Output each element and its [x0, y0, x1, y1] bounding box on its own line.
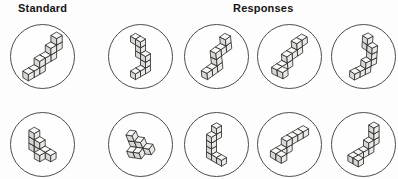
cube-figure	[109, 25, 172, 88]
response-circle-2-1	[108, 112, 173, 177]
response-circle-2-2	[184, 112, 249, 177]
response-circle-1-2	[184, 24, 249, 89]
response-circle-2-4	[331, 112, 396, 177]
response-circle-2-3	[257, 112, 322, 177]
response-circle-1-3	[257, 24, 322, 89]
response-circle-1-4	[331, 24, 396, 89]
cube-figure	[109, 113, 172, 176]
cube-figure	[11, 25, 74, 88]
response-circle-1-1	[108, 24, 173, 89]
cube-figure	[185, 113, 248, 176]
cube-figure	[258, 25, 321, 88]
standard-stimulus-circle-1	[10, 24, 75, 89]
cube-figure	[185, 25, 248, 88]
cube-figure	[11, 113, 74, 176]
mental-rotation-figure: Standard Responses	[0, 0, 398, 179]
cube-figure	[258, 113, 321, 176]
responses-column-label: Responses	[233, 2, 294, 14]
cube-figure	[332, 113, 395, 176]
cube-figure	[332, 25, 395, 88]
standard-stimulus-circle-2	[10, 112, 75, 177]
standard-column-label: Standard	[18, 2, 67, 14]
